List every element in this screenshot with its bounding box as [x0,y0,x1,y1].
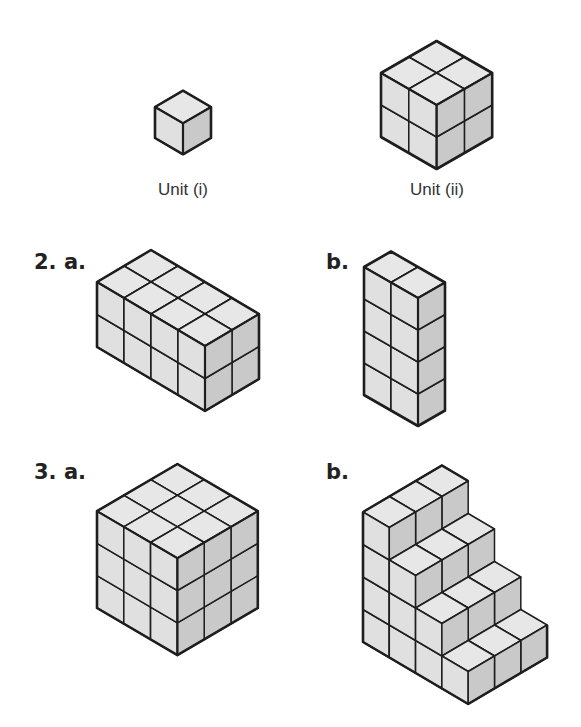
q2a-prism [97,250,259,411]
question-2b-label: b. [326,250,349,274]
q2b-prism [364,252,445,427]
isometric-figures [0,0,581,727]
question-3a-label: 3. a. [34,460,86,484]
unit-i-cube [155,91,211,155]
figure-sheet: Unit (i) Unit (ii) 2. a. b. 3. a. b. [0,0,581,727]
question-3b-label: b. [326,460,349,484]
unit-ii-caption: Unit (ii) [410,180,464,200]
q3a-cube [97,464,258,655]
unit-ii-cube [381,41,492,169]
q3b-stairs [363,466,547,705]
unit-i-caption: Unit (i) [158,180,208,200]
question-2a-label: 2. a. [34,250,86,274]
